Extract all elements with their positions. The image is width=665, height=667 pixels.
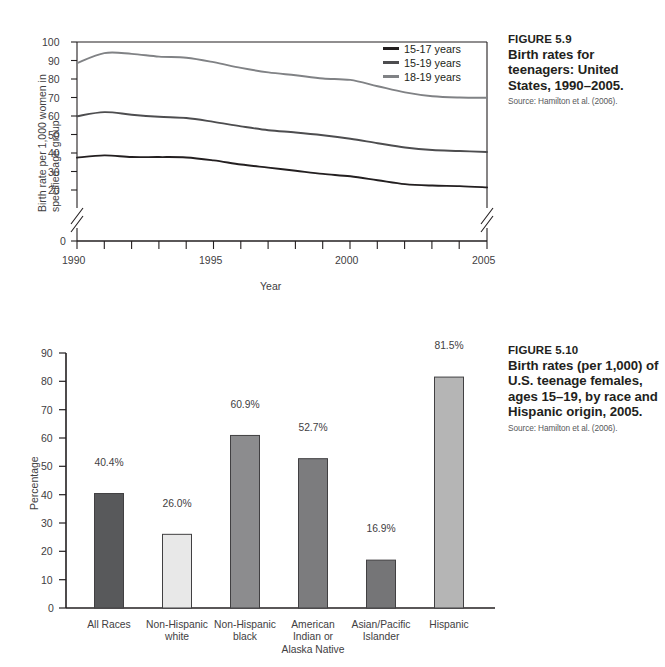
- y-tick-label: 90: [41, 347, 53, 359]
- caption-source: Source: Hamilton et al. (2006).: [508, 423, 660, 434]
- y-ticks: [59, 353, 66, 608]
- bar-category-label: Non-Hispanic black: [214, 619, 276, 644]
- bar: [367, 560, 396, 608]
- y-tick-label: 20: [41, 545, 53, 557]
- bar-category-label: All Races: [87, 619, 131, 631]
- caption-figure-number: FIGURE 5.9: [508, 32, 660, 46]
- y-tick-label: 0: [60, 235, 66, 247]
- caption-figure-number: FIGURE 5.10: [508, 343, 660, 357]
- bar-value-label: 60.9%: [230, 399, 259, 410]
- x-axis-title: Year: [260, 280, 281, 292]
- legend-swatch-icon: [383, 47, 399, 50]
- caption-title: Birth rates for teenagers: United States…: [508, 47, 660, 93]
- bar-group: [95, 377, 464, 608]
- y-ticks: [71, 42, 77, 241]
- bar-value-label: 81.5%: [434, 340, 463, 351]
- bar: [95, 494, 124, 608]
- bar: [163, 534, 192, 608]
- y-axis-title: Percentage: [28, 456, 40, 510]
- x-tick-label: 1990: [62, 254, 85, 266]
- y-tick-label: 30: [41, 517, 53, 529]
- figure-5-10-caption: FIGURE 5.10 Birth rates (per 1,000) of U…: [508, 343, 660, 434]
- bar-chart-svg: [0, 325, 508, 667]
- figure-5-10: 0 10 20 30 40 50 60 70 80 90 Percentage …: [0, 325, 665, 667]
- line-chart-legend: 15-17 years 15-19 years 18-19 years: [383, 42, 487, 84]
- bar: [231, 435, 260, 608]
- legend-label: 15-19 years: [404, 57, 461, 69]
- figure-5-9: 100 90 80 70 60 50 40 30 20 0 1990 1995 …: [0, 0, 665, 310]
- caption-source: Source: Hamilton et al. (2006).: [508, 96, 660, 107]
- legend-swatch-icon: [383, 75, 399, 78]
- y-tick-label: 70: [41, 404, 53, 416]
- line-series: [77, 112, 487, 152]
- bar-value-label: 16.9%: [366, 523, 395, 534]
- y-tick-label: 0: [48, 602, 54, 614]
- caption-title: Birth rates (per 1,000) of U.S. teenage …: [508, 358, 660, 420]
- x-tick-label: 2000: [335, 254, 358, 266]
- x-ticks: [77, 241, 487, 249]
- bar-value-label: 40.4%: [94, 457, 123, 468]
- bar-category-label: Hispanic: [429, 619, 469, 631]
- figure-5-9-caption: FIGURE 5.9 Birth rates for teenagers: Un…: [508, 32, 660, 107]
- x-tick-label: 2005: [472, 254, 495, 266]
- legend-item: 18-19 years: [383, 70, 487, 83]
- bar-value-label: 52.7%: [298, 422, 327, 433]
- y-axis-title: Birth rate per 1,000 women in specified …: [36, 32, 61, 212]
- bar-category-label: Asian/Pacific Islander: [352, 619, 411, 644]
- y-tick-label: 60: [41, 432, 53, 444]
- bar-category-label: American Indian or Alaska Native: [282, 619, 345, 656]
- line-series: [77, 155, 487, 187]
- y-tick-label: 10: [41, 574, 53, 586]
- x-tick-label: 1995: [199, 254, 222, 266]
- legend-item: 15-17 years: [383, 42, 487, 55]
- legend-item: 15-19 years: [383, 56, 487, 69]
- legend-swatch-icon: [383, 61, 399, 64]
- bar: [299, 459, 328, 608]
- bar-category-label: Non-Hispanic white: [146, 619, 208, 644]
- legend-label: 15-17 years: [404, 43, 461, 55]
- bar: [435, 377, 464, 608]
- legend-label: 18-19 years: [404, 71, 461, 83]
- y-tick-label: 40: [41, 489, 53, 501]
- y-tick-label: 50: [41, 460, 53, 472]
- bar-value-label: 26.0%: [162, 498, 191, 509]
- y-tick-label: 80: [41, 375, 53, 387]
